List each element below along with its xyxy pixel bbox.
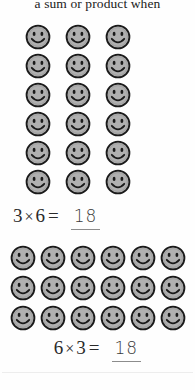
smiley-face-icon [25,53,51,79]
equation-1-equals-sign: = [45,205,62,226]
smiley-face-icon [25,82,51,108]
smiley-face-icon [70,245,96,271]
smiley-face-icon [70,305,96,331]
smiley-face-icon [65,140,91,166]
smiley-face-icon [25,111,51,137]
equation-2-equals-sign: = [86,337,103,358]
smiley-face-icon [105,140,131,166]
smiley-face-icon [105,82,131,108]
smiley-face-icon [25,140,51,166]
smiley-face-icon [130,245,156,271]
smiley-face-icon [25,24,51,50]
smiley-face-icon [10,245,36,271]
smiley-face-icon [65,53,91,79]
smiley-face-icon [65,169,91,195]
smiley-face-icon [160,305,186,331]
equation-1-right-factor: 6 [36,205,46,226]
smiley-face-icon [130,305,156,331]
page-heading-text: a sum or product when [0,0,195,12]
smiley-face-icon [105,53,131,79]
smiley-face-icon [25,169,51,195]
equation-1-answer[interactable]: 18 [71,204,101,230]
equation-1-left-factor: 3 [13,205,23,226]
smiley-face-icon [100,275,126,301]
smiley-face-icon [160,275,186,301]
smiley-face-icon [105,169,131,195]
smiley-array-6-by-3 [8,243,188,333]
equation-2-operator: × [63,340,76,357]
smiley-face-icon [160,245,186,271]
smiley-face-icon [105,24,131,50]
smiley-face-icon [70,275,96,301]
smiley-face-icon [65,111,91,137]
smiley-face-icon [10,305,36,331]
equation-2-left-factor: 6 [54,337,64,358]
smiley-face-icon [10,275,36,301]
smiley-face-icon [40,305,66,331]
smiley-array-3-by-6 [18,22,138,196]
equation-2-right-factor: 3 [76,337,86,358]
smiley-face-icon [130,275,156,301]
equation-2-answer[interactable]: 18 [112,336,142,362]
worksheet-page: a sum or product when 3×6=18 6×3=18 [0,0,195,390]
equation-6-times-3: 6×3=18 [0,336,195,362]
smiley-face-icon [100,305,126,331]
smiley-face-icon [40,275,66,301]
smiley-face-icon [65,82,91,108]
equation-3-times-6: 3×6=18 [13,204,100,230]
equation-1-operator: × [23,208,36,225]
smiley-face-icon [105,111,131,137]
smiley-face-icon [40,245,66,271]
smiley-face-icon [65,24,91,50]
smiley-face-icon [100,245,126,271]
page-bottom-rule [2,372,193,373]
